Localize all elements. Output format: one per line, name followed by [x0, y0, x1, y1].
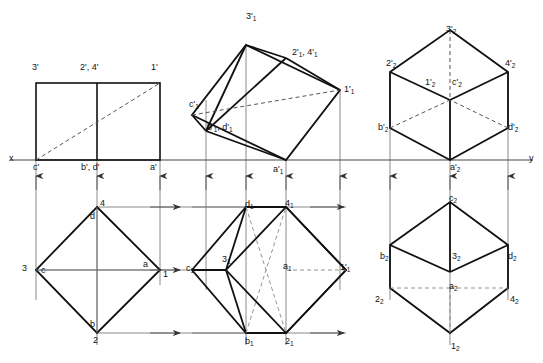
- label-a-2: a2: [449, 282, 458, 291]
- label-a: a: [143, 260, 148, 269]
- label-d-prime-2: d'2: [508, 123, 518, 132]
- axis-label-x: x: [9, 154, 14, 163]
- label-1-prime: 1': [151, 63, 158, 72]
- label-3-prime-2: 3'2: [446, 25, 456, 34]
- label-1-prime-2: 1'2: [425, 78, 435, 87]
- second-auxiliary-elevation-geometry: [390, 30, 508, 160]
- label-d-1: d1: [245, 200, 254, 209]
- label-b-2: b2: [380, 252, 389, 261]
- top-view-geometry: [36, 207, 160, 333]
- label-c-2: c2: [449, 194, 457, 203]
- label-a-1: a1: [283, 262, 292, 271]
- label-1: 1: [163, 270, 168, 279]
- label-d: d: [90, 212, 95, 221]
- label-2-1: 21: [285, 337, 294, 346]
- label-3: 3: [22, 264, 27, 273]
- projector-arrowheads: [36, 176, 508, 333]
- label-d-2: d2: [508, 252, 517, 261]
- label-3-1: 31: [222, 255, 231, 264]
- label-4-2: 42: [510, 295, 519, 304]
- label-2-4-prime-1: 2'1, 4'1: [292, 48, 318, 57]
- label-1-prime-1: 1'1: [344, 85, 354, 94]
- label-3-prime-1: 3'1: [246, 12, 256, 21]
- label-b: b: [90, 320, 95, 329]
- auxiliary-plan-geometry: [192, 207, 346, 333]
- label-a-prime-2: a'2: [450, 163, 460, 172]
- label-c: c: [41, 266, 46, 275]
- label-b-prime-2: b'2: [378, 123, 388, 132]
- drawing-canvas: [0, 0, 543, 363]
- label-4-1: 41: [285, 199, 294, 208]
- second-auxiliary-plan-geometry: [390, 202, 508, 333]
- label-c-prime-1: c'1: [189, 100, 199, 109]
- label-2-2: 22: [375, 295, 384, 304]
- label-c-prime-2: c'2: [452, 78, 462, 87]
- label-1-2: 12: [451, 342, 460, 351]
- label-4-prime-2: 4'2: [505, 59, 515, 68]
- label-a-prime-1: a'1: [273, 165, 283, 174]
- label-c-1: c1: [186, 264, 194, 273]
- label-2-4-prime: 2', 4': [80, 63, 98, 72]
- label-1-prime-1b: 1'1: [340, 263, 350, 272]
- axis-label-y: y: [529, 154, 534, 163]
- front-view-geometry: [36, 83, 160, 160]
- projector-lines: [36, 45, 508, 345]
- drawing-sheet: x y 3'2', 4'1'c'b', d'a'3'12'1, 4'11'1c'…: [0, 0, 543, 363]
- label-3-prime: 3': [32, 63, 39, 72]
- label-2: 2: [93, 336, 98, 345]
- label-b-d-prime: b', d': [81, 163, 99, 172]
- label-4: 4: [100, 199, 105, 208]
- label-b-d-prime-1: b'1, d'1: [207, 123, 233, 132]
- auxiliary-elevation-geometry: [192, 45, 340, 160]
- label-b-1: b1: [245, 337, 254, 346]
- label-a-prime: a': [150, 163, 157, 172]
- label-3-2: 32: [452, 252, 461, 261]
- label-c-prime: c': [33, 163, 39, 172]
- label-2-prime-2: 2'2: [386, 59, 396, 68]
